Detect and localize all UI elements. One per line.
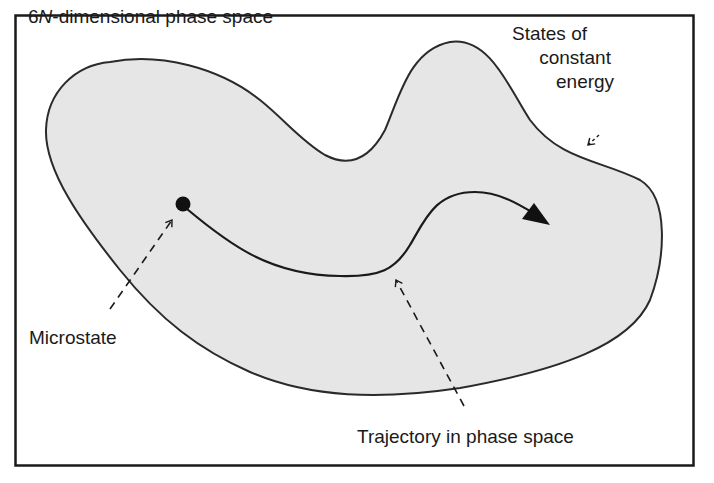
energy-label-line-3: energy [512,70,614,94]
title-italic-n: N [39,6,53,27]
title-prefix: 6 [28,6,39,27]
trajectory-label: Trajectory in phase space [357,426,574,448]
energy-label-line-2: constant [512,46,614,70]
microstate-point [176,197,191,212]
diagram-title: 6N-dimensional phase space [28,6,273,28]
energy-label-line-1: States of [512,22,614,46]
constant-energy-label: States of constant energy [512,22,614,94]
microstate-label: Microstate [29,327,117,349]
title-suffix: -dimensional phase space [52,6,273,27]
